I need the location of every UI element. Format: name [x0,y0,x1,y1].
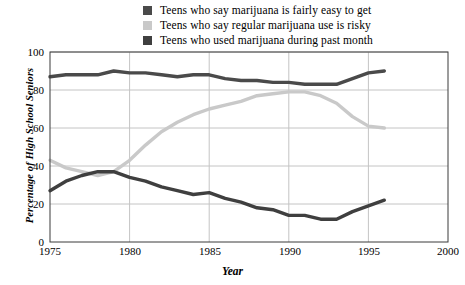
chart-figure: Teens who say marijuana is fairly easy t… [0,0,465,285]
series-line-easy-to-get [50,71,384,84]
series-line-used-past-month [50,172,384,220]
data-series-layer [50,71,384,219]
plot-area [0,0,465,285]
series-line-use-is-risky [50,92,384,176]
